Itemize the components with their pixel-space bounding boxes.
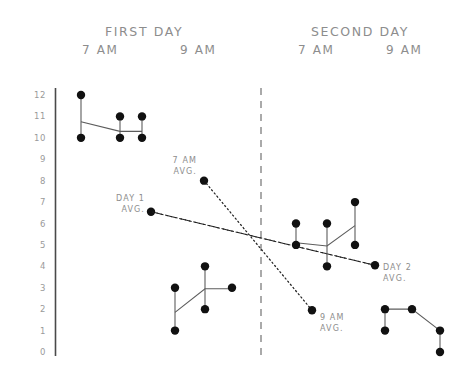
y-tick-label: 10	[34, 133, 46, 143]
data-point-dot	[381, 305, 389, 313]
y-tick-label: 0	[40, 347, 46, 357]
y-tick-label: 6	[40, 219, 46, 229]
data-point-dot	[228, 284, 236, 292]
y-tick-label: 1	[40, 326, 46, 336]
label-day1-avg-line2: AVG.	[121, 205, 145, 214]
data-point-dot	[292, 241, 300, 249]
chart-canvas: FIRST DAY SECOND DAY 7 AM 9 AM 7 AM 9 AM…	[0, 0, 472, 382]
cluster-link-line	[296, 226, 355, 246]
y-tick-label: 5	[40, 240, 46, 250]
y-tick-label: 7	[40, 197, 46, 207]
data-point-dot	[77, 91, 85, 99]
trend-marker-dot	[147, 208, 155, 216]
label-day2-avg-line1: DAY 2	[383, 263, 412, 272]
label-7am-avg-line1: 7 AM	[173, 156, 197, 165]
data-point-dot	[138, 112, 146, 120]
data-point-dot	[77, 134, 85, 142]
data-point-dot	[351, 241, 359, 249]
trend-marker-dot	[308, 306, 316, 314]
data-point-dot	[171, 284, 179, 292]
y-tick-label: 11	[34, 111, 46, 121]
data-point-dot	[408, 305, 416, 313]
label-7am-avg-line2: AVG.	[173, 167, 197, 176]
trend-marker-dot	[371, 261, 379, 269]
data-point-dot	[323, 219, 331, 227]
label-9am-avg-line1: 9 AM	[320, 313, 344, 322]
y-tick-label: 12	[34, 90, 46, 100]
y-tick-label: 3	[40, 283, 46, 293]
data-point-dot	[351, 198, 359, 206]
label-day2-avg-line2: AVG.	[383, 274, 407, 283]
data-point-dot	[323, 262, 331, 270]
label-day1-avg-line1: DAY 1	[116, 194, 145, 203]
y-tick-label: 9	[40, 154, 46, 164]
data-point-dot	[436, 326, 444, 334]
data-point-dot	[171, 326, 179, 334]
data-point-dot	[116, 134, 124, 142]
cluster-link-line	[81, 122, 142, 132]
trend-lines	[147, 176, 379, 314]
data-point-dot	[201, 262, 209, 270]
data-point-dot	[201, 305, 209, 313]
y-axis-tick-labels: 1211109876543210	[34, 90, 46, 357]
data-point-dot	[138, 134, 146, 142]
label-9am-avg-line2: AVG.	[320, 324, 344, 333]
y-tick-label: 4	[40, 261, 46, 271]
trend-annotations: 7 AMAVG.DAY 1AVG.9 AMAVG.DAY 2AVG.	[116, 156, 412, 333]
y-tick-label: 2	[40, 304, 46, 314]
data-point-dot	[381, 326, 389, 334]
scatter-plot: 1211109876543210 7 AMAVG.DAY 1AVG.9 AMAV…	[0, 0, 472, 382]
data-point-dot	[436, 348, 444, 356]
y-tick-label: 8	[40, 176, 46, 186]
data-point-dot	[292, 219, 300, 227]
data-point-dot	[116, 112, 124, 120]
